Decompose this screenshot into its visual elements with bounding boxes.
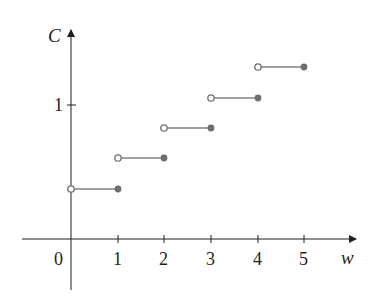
open-dot-icon (161, 125, 167, 131)
open-dot-icon (208, 95, 214, 101)
step-segments (74, 67, 304, 189)
x-tick-label-1: 1 (113, 249, 122, 269)
closed-endpoints (115, 64, 308, 193)
x-axis-label: w (341, 247, 354, 268)
y-axis-label: C (48, 25, 61, 46)
open-dot-icon (68, 186, 74, 192)
closed-dot-icon (115, 186, 122, 193)
origin-label: 0 (54, 249, 63, 269)
closed-dot-icon (208, 125, 215, 132)
open-dot-icon (255, 64, 261, 70)
step-function-chart: C w 0 1 1 2 3 4 5 (0, 0, 391, 299)
x-tick-label-2: 2 (159, 249, 168, 269)
open-dot-icon (115, 155, 121, 161)
closed-dot-icon (301, 64, 308, 71)
x-tick-label-4: 4 (253, 249, 262, 269)
closed-dot-icon (161, 155, 168, 162)
x-tick-label-3: 3 (206, 249, 215, 269)
y-tick-label-1: 1 (54, 95, 63, 115)
x-tick-label-5: 5 (299, 249, 308, 269)
closed-dot-icon (255, 95, 262, 102)
open-endpoints (68, 64, 261, 192)
